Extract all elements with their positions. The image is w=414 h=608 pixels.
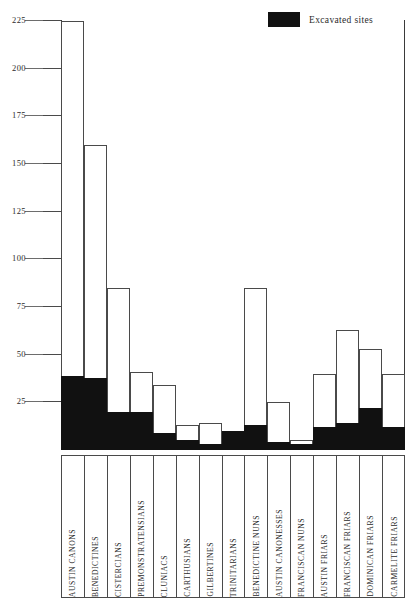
y-axis-tick-rule: [25, 20, 43, 21]
y-axis-tick-rule: [25, 258, 43, 259]
category-label-cell: CARMELITE FRIARS: [383, 456, 406, 597]
y-axis-label: 175: [0, 110, 26, 120]
y-axis-tick: [43, 68, 61, 69]
y-axis-label: 50: [0, 349, 26, 359]
bar-excavated-sites: [382, 427, 405, 450]
category-label-cell: BENEDICTINE NUNS: [245, 456, 268, 597]
bars-container: [61, 20, 405, 450]
category-label-cell: AUSTIN CANONS: [62, 456, 85, 597]
category-label-text: TRINITARIANS: [230, 532, 238, 597]
y-axis-tick-rule: [25, 68, 43, 69]
category-label-text: CARMELITE FRIARS: [391, 510, 399, 597]
category-label-cell: DOMINICAN FRIARS: [360, 456, 383, 597]
y-axis-tick-rule: [25, 306, 43, 307]
bar-group: [290, 21, 313, 450]
y-axis-tick-rule: [25, 401, 43, 402]
bar-group: [199, 21, 222, 450]
y-axis-tick: [43, 401, 61, 402]
category-label-text: PREMONSTRATENSIANS: [138, 494, 146, 597]
bar-group: [84, 21, 107, 450]
bar-group: [153, 21, 176, 450]
category-label-text: AUSTIN CANONESSES: [276, 503, 284, 597]
y-axis-tick: [43, 20, 61, 21]
y-axis-label: 125: [0, 206, 26, 216]
bar-excavated-sites: [267, 442, 290, 450]
y-axis-tick-rule: [25, 115, 43, 116]
category-label-text: AUSTIN FRIARS: [321, 528, 329, 597]
category-label-text: DOMINICAN FRIARS: [367, 509, 375, 597]
y-axis-tick: [43, 258, 61, 259]
bar-group: [244, 21, 267, 450]
category-label-text: FRANCISCAN FRIARS: [344, 505, 352, 597]
bar-excavated-sites: [130, 412, 153, 450]
category-label-cell: AUSTIN FRIARS: [314, 456, 337, 597]
bar-excavated-sites: [290, 444, 313, 450]
bar-group: [61, 21, 84, 450]
bar-group: [382, 21, 405, 450]
category-label-cell: CLUNIACS: [154, 456, 177, 597]
y-axis-tick-rule: [25, 354, 43, 355]
bar-excavated-sites: [222, 431, 245, 450]
category-label-cell: PREMONSTRATENSIANS: [131, 456, 154, 597]
bar-group: [176, 21, 199, 450]
bar-group: [130, 21, 153, 450]
y-axis-label: 75: [0, 301, 26, 311]
category-label-cell: GILBERTINES: [200, 456, 223, 597]
category-label-table: AUSTIN CANONSBENEDICTINESCISTERCIANSPREM…: [61, 455, 405, 598]
bar-excavated-sites: [84, 378, 107, 450]
bar-group: [222, 21, 245, 450]
bar-excavated-sites: [313, 427, 336, 450]
y-axis-label: 25: [0, 396, 26, 406]
bar-group: [107, 21, 130, 450]
category-label-cell: FRANCISCAN NUNS: [291, 456, 314, 597]
bar-excavated-sites: [153, 433, 176, 450]
category-label-text: CARTHUSIANS: [184, 532, 192, 597]
bar-excavated-sites: [336, 423, 359, 450]
y-axis-label: 225: [0, 15, 26, 25]
bar-excavated-sites: [199, 444, 222, 450]
y-axis-tick: [43, 211, 61, 212]
bar-group: [359, 21, 382, 450]
bar-group: [336, 21, 359, 450]
category-label-text: CISTERCIANS: [115, 536, 123, 597]
bar-excavated-sites: [61, 376, 84, 450]
category-label-text: FRANCISCAN NUNS: [298, 512, 306, 597]
y-axis-tick: [43, 115, 61, 116]
category-label-cell: BENEDICTINES: [85, 456, 108, 597]
category-label-cell: CARTHUSIANS: [177, 456, 200, 597]
category-label-cell: TRINITARIANS: [223, 456, 246, 597]
bar-group: [267, 21, 290, 450]
y-axis-tick-rule: [25, 163, 43, 164]
category-label-cell: AUSTIN CANONESSES: [268, 456, 291, 597]
category-label-text: BENEDICTINE NUNS: [253, 509, 261, 597]
bar-chart-figure: Excavated sites 255075100125150175200225…: [0, 0, 414, 608]
category-label-cell: CISTERCIANS: [108, 456, 131, 597]
category-label-text: BENEDICTINES: [92, 530, 100, 597]
y-axis-tick: [43, 163, 61, 164]
y-axis-label: 200: [0, 63, 26, 73]
y-axis-tick-rule: [25, 211, 43, 212]
bar-excavated-sites: [359, 408, 382, 450]
category-label-text: CLUNIACS: [161, 549, 169, 597]
bar-excavated-sites: [107, 412, 130, 450]
y-axis-label: 150: [0, 158, 26, 168]
category-label-text: AUSTIN CANONS: [69, 523, 77, 597]
bar-excavated-sites: [244, 425, 267, 450]
category-label-cell: FRANCISCAN FRIARS: [337, 456, 360, 597]
y-axis-tick: [43, 354, 61, 355]
category-label-text: GILBERTINES: [207, 536, 215, 597]
bar-excavated-sites: [176, 440, 199, 450]
bar-group: [313, 21, 336, 450]
y-axis-label: 100: [0, 253, 26, 263]
y-axis-tick: [43, 306, 61, 307]
